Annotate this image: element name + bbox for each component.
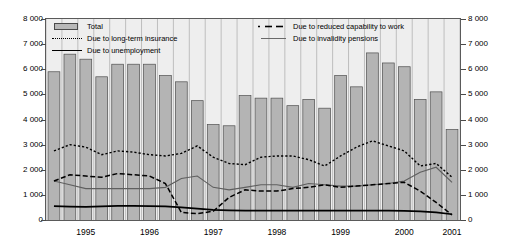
y-tick-mark: [461, 69, 466, 70]
legend-swatch-total: [52, 22, 82, 31]
y-tick-mark: [41, 145, 46, 146]
x-tick-label: 1995: [76, 228, 95, 237]
y-tick-label-left: 3 000: [23, 141, 43, 149]
y-tick-mark: [461, 94, 466, 95]
legend-swatch-long-term-insurance: [52, 34, 82, 43]
x-tick-label: 1996: [140, 228, 159, 237]
x-tick-label: 1999: [331, 228, 350, 237]
y-tick-mark: [41, 94, 46, 95]
bar: [382, 63, 394, 220]
y-tick-label-right: 4 000: [468, 116, 488, 124]
bar: [398, 67, 410, 220]
bar: [223, 126, 235, 220]
y-tick-label-right: 0: [468, 216, 472, 224]
y-tick-mark: [41, 120, 46, 121]
chart-legend: Total Due to long-term insurance Due to …: [52, 21, 452, 55]
legend-item-invalidity-pensions: Due to invalidity pensions: [258, 33, 378, 43]
bar: [319, 108, 331, 220]
legend-swatch-reduced-capability: [258, 22, 288, 31]
y-tick-label-right: 3 000: [468, 141, 488, 149]
y-tick-label-left: 5 000: [23, 90, 43, 98]
bar: [207, 125, 219, 220]
bar: [335, 76, 347, 220]
y-tick-mark: [461, 120, 466, 121]
legend-label-long-term-insurance: Due to long-term insurance: [87, 34, 177, 43]
bar: [64, 54, 76, 220]
bar: [144, 64, 156, 220]
y-tick-mark: [41, 69, 46, 70]
x-tick-label: 1998: [267, 228, 286, 237]
legend-label-reduced-capability: Due to reduced capability to work: [293, 22, 404, 31]
y-tick-mark: [461, 220, 466, 221]
y-tick-label-left: 4 000: [23, 116, 43, 124]
legend-item-unemployment: Due to unemployment: [52, 45, 160, 55]
legend-swatch-unemployment: [52, 46, 82, 55]
x-tick-label: 2001: [443, 228, 462, 237]
y-tick-mark: [41, 220, 46, 221]
y-tick-mark: [461, 44, 466, 45]
bar: [48, 72, 60, 220]
y-tick-label-left: 6 000: [23, 65, 43, 73]
y-tick-label-right: 1 000: [468, 191, 488, 199]
legend-item-reduced-capability: Due to reduced capability to work: [258, 21, 404, 31]
legend-label-total: Total: [87, 22, 103, 31]
bar: [351, 87, 363, 220]
y-tick-label-right: 8 000: [468, 15, 488, 23]
y-tick-label-left: 1 000: [23, 191, 43, 199]
y-tick-label-right: 5 000: [468, 90, 488, 98]
legend-label-invalidity-pensions: Due to invalidity pensions: [293, 34, 378, 43]
bar: [303, 99, 315, 220]
x-tick-label: 2000: [395, 228, 414, 237]
y-tick-label-left: 7 000: [23, 40, 43, 48]
legend-label-unemployment: Due to unemployment: [87, 46, 160, 55]
legend-swatch-invalidity-pensions: [258, 34, 288, 43]
bar: [96, 77, 108, 220]
y-tick-label-left: 2 000: [23, 166, 43, 174]
bar: [446, 130, 458, 220]
y-tick-mark: [461, 145, 466, 146]
y-tick-mark: [461, 19, 466, 20]
chart-figure: 01 0002 0003 0004 0005 0006 0007 0008 00…: [0, 0, 505, 252]
legend-item-long-term-insurance: Due to long-term insurance: [52, 33, 177, 43]
bar: [271, 98, 283, 220]
y-tick-mark: [41, 195, 46, 196]
y-tick-label-right: 6 000: [468, 65, 488, 73]
bar: [287, 106, 299, 220]
y-tick-label-right: 2 000: [468, 166, 488, 174]
bar: [414, 99, 426, 220]
y-tick-mark: [461, 170, 466, 171]
y-tick-mark: [41, 170, 46, 171]
y-tick-mark: [41, 44, 46, 45]
bar: [191, 101, 203, 220]
x-tick-label: 1997: [204, 228, 223, 237]
y-tick-label-right: 7 000: [468, 40, 488, 48]
y-tick-label-left: 8 000: [23, 15, 43, 23]
bar: [160, 76, 172, 220]
bar: [80, 59, 92, 220]
bar: [239, 96, 251, 220]
y-tick-mark: [461, 195, 466, 196]
y-tick-mark: [41, 19, 46, 20]
bar: [367, 53, 379, 220]
bar: [128, 64, 140, 220]
legend-item-total: Total: [52, 21, 103, 31]
bar: [430, 92, 442, 220]
bar: [112, 64, 124, 220]
